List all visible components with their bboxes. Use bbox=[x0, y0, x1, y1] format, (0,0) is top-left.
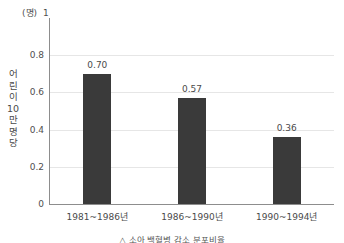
x-axis-tick-label-2: 1986~1990년 bbox=[161, 211, 222, 223]
figure-caption-clip: △ 소아 백혈병 감소 분포비율 bbox=[0, 235, 344, 243]
y-axis-tick-label-0-6: 0.6 bbox=[30, 87, 44, 97]
y-axis-title: 어린이 10만명당 bbox=[6, 68, 20, 149]
bar-value-label-2: 0.57 bbox=[182, 84, 202, 94]
y-axis-tick-label-0-8: 0.8 bbox=[30, 50, 44, 60]
bar-1986-1990[interactable] bbox=[178, 98, 206, 204]
x-axis-tick-label-3: 1990~1994년 bbox=[256, 211, 317, 223]
bar-chart-figure: (명) 1 어린이 10만명당 0.8 0.6 0.4 0.2 0 0.70 0… bbox=[0, 0, 344, 243]
y-axis-tick-label-0: 0 bbox=[38, 199, 44, 209]
y-axis-tick-label-0-4: 0.4 bbox=[30, 125, 44, 135]
bar-slot-1: 0.70 bbox=[50, 18, 145, 204]
x-axis-label-group: 1981~1986년 1986~1990년 1990~1994년 bbox=[49, 211, 334, 225]
bar-1981-1986[interactable] bbox=[83, 74, 111, 204]
bar-slot-2: 0.57 bbox=[145, 18, 240, 204]
bar-value-label-1: 0.70 bbox=[87, 60, 107, 70]
bar-group: 0.70 0.57 0.36 bbox=[50, 18, 334, 204]
y-axis-tick-label-0-2: 0.2 bbox=[30, 162, 44, 172]
x-axis-tick-label-1: 1981~1986년 bbox=[67, 211, 128, 223]
plot-area: 0.8 0.6 0.4 0.2 0 0.70 0.57 0.36 bbox=[49, 18, 334, 205]
x-axis-line bbox=[49, 204, 334, 205]
y-axis-tick-label-top: 1 bbox=[43, 8, 49, 19]
figure-caption: △ 소아 백혈병 감소 분포비율 bbox=[0, 235, 344, 243]
bar-value-label-3: 0.36 bbox=[277, 123, 297, 133]
bar-1990-1994[interactable] bbox=[273, 137, 301, 204]
y-axis-unit-label: (명) bbox=[22, 8, 37, 19]
bar-slot-3: 0.36 bbox=[239, 18, 334, 204]
